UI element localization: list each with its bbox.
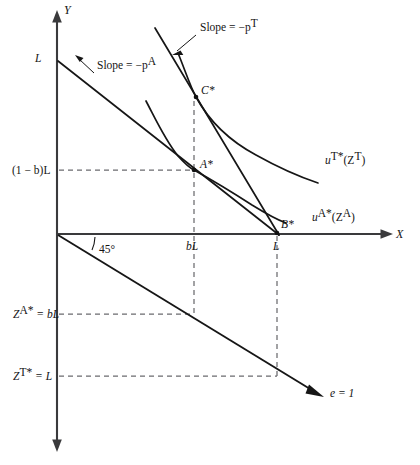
x-tick-bL-label: bL — [186, 240, 198, 252]
y-axis-label: Y — [64, 3, 72, 17]
z-A-star-label: ZA* = bL — [13, 304, 59, 320]
text-labels-group: Y X L Slope = −pA Slope = −pT C* A* B* (… — [12, 3, 404, 399]
ray-label-e-equals-1: e = 1 — [330, 387, 354, 399]
axis-group — [52, 10, 393, 452]
z-T-star-label: ZT* = L — [13, 366, 52, 382]
point-C-label: C* — [201, 84, 215, 96]
point-C-marker — [194, 95, 199, 100]
leader-arrowhead-pA — [75, 55, 84, 62]
y-axis-down-arrowhead — [52, 440, 62, 453]
curve-label-uA: uA*(ZA) — [312, 207, 355, 224]
ray-arrowhead — [306, 385, 325, 398]
angle-arc-45 — [92, 237, 95, 250]
x-axis-arrowhead — [381, 229, 394, 239]
angle-45-label: 45° — [99, 243, 116, 255]
economics-diagram-svg: Y X L Slope = −pA Slope = −pT C* A* B* (… — [0, 0, 420, 465]
ray-45-group — [58, 235, 324, 397]
leader-line-pA — [79, 59, 94, 73]
slope-pT-label: Slope = −pT — [200, 17, 258, 34]
y-axis-up-arrowhead — [52, 10, 62, 23]
point-B-marker — [275, 231, 280, 236]
leader-line-pT — [177, 35, 196, 51]
indifference-curve-uA — [146, 101, 286, 223]
x-axis-label: X — [395, 227, 404, 241]
x-tick-L-label: L — [272, 240, 279, 252]
point-A-label: A* — [199, 158, 213, 170]
indifference-curve-uT — [178, 53, 318, 183]
y-tick-1mbL-label: (1 − b)L — [12, 164, 50, 177]
curve-label-uT: uT*(ZT) — [325, 150, 365, 167]
budget-line-pT — [155, 28, 279, 235]
slope-pA-label: Slope = −pA — [97, 55, 157, 72]
point-B-label: B* — [281, 218, 294, 230]
budget-line-pA — [58, 61, 279, 235]
budget-lines-group — [58, 28, 279, 235]
leader-arrowhead-pT — [172, 51, 183, 56]
y-intercept-L-label: L — [34, 52, 41, 64]
figure-container: Y X L Slope = −pA Slope = −pT C* A* B* (… — [0, 0, 420, 465]
point-A-marker — [192, 168, 197, 173]
